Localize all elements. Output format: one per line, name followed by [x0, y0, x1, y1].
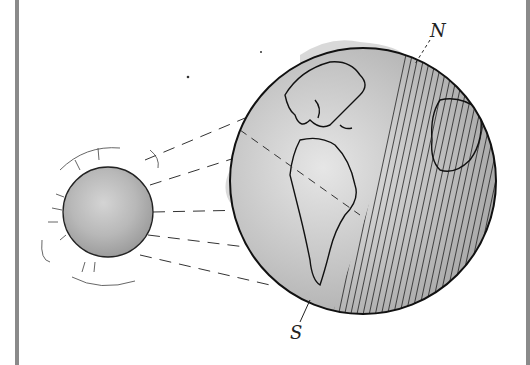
- sun-earth-illustration: [0, 0, 530, 365]
- sun-icon: [63, 167, 153, 257]
- south-pole-label: S: [290, 322, 302, 343]
- north-pole-label: N: [430, 20, 446, 41]
